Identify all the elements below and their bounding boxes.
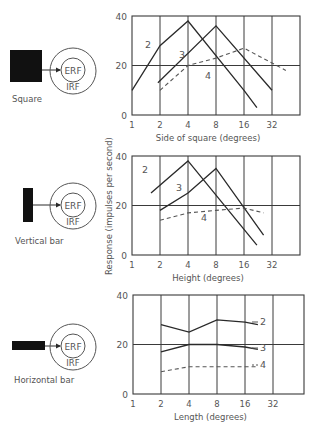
x-tick-label: 2 — [157, 260, 162, 270]
x-tick-label: 8 — [214, 399, 219, 409]
square-stimulus-icon — [10, 50, 42, 82]
figure: 0204012481632Side of square (degrees)234… — [0, 0, 315, 429]
horizontal-bar-stimulus-icon — [12, 341, 45, 350]
irf-label: IRF — [66, 82, 79, 92]
x-tick-label: 16 — [239, 260, 250, 270]
series-label-3: 3 — [260, 342, 266, 353]
y-tick-label: 40 — [117, 291, 129, 301]
vertical-bar-stimulus-icon — [23, 188, 33, 222]
series-line-3 — [160, 168, 264, 235]
stimulus-diagram-1: ERFIRFSquare — [10, 48, 96, 104]
series-label-2: 2 — [145, 39, 151, 50]
x-tick-label: 16 — [240, 399, 251, 409]
series-label-2: 2 — [142, 164, 148, 175]
y-tick-label: 0 — [121, 251, 127, 261]
x-tick-label: 2 — [157, 120, 162, 130]
erf-label: ERF — [64, 66, 81, 76]
x-tick-label: 4 — [186, 399, 191, 409]
x-tick-label: 8 — [213, 120, 218, 130]
chart-panel-2: 0204012481632Height (degrees)234ERFIRFVe… — [15, 152, 300, 284]
x-tick-label: 16 — [239, 120, 250, 130]
stimulus-label: Square — [12, 94, 42, 104]
erf-label: ERF — [64, 201, 81, 211]
x-tick-label: 2 — [158, 399, 163, 409]
x-tick-label: 32 — [267, 260, 278, 270]
x-tick-label: 1 — [130, 399, 135, 409]
y-tick-label: 20 — [116, 61, 128, 71]
irf-label: IRF — [66, 358, 79, 368]
x-tick-label: 4 — [185, 260, 190, 270]
stimulus-diagram-2: ERFIRFVertical bar — [15, 183, 96, 246]
x-tick-label: 4 — [185, 120, 190, 130]
y-axis-label: Response (impulses per second) — [104, 137, 114, 275]
series-label-2: 2 — [260, 316, 266, 327]
stimulus-diagram-3: ERFIRFHorizontal bar — [12, 324, 96, 385]
x-tick-label: 1 — [129, 120, 134, 130]
y-tick-label: 20 — [116, 201, 128, 211]
x-tick-label: 8 — [213, 260, 218, 270]
series-line-2 — [161, 320, 258, 332]
series-line-3 — [161, 345, 258, 352]
x-axis-label: Height (degrees) — [172, 273, 244, 283]
stimulus-label: Vertical bar — [15, 236, 64, 246]
stimulus-label: Horizontal bar — [14, 375, 75, 385]
series-line-4 — [161, 367, 258, 372]
x-axis-label: Length (degrees) — [174, 412, 247, 422]
x-tick-label: 32 — [268, 399, 279, 409]
series-label-4: 4 — [205, 70, 211, 81]
y-tick-label: 40 — [116, 12, 128, 22]
y-tick-label: 20 — [117, 340, 129, 350]
x-tick-label: 1 — [129, 260, 134, 270]
series-label-4: 4 — [201, 212, 207, 223]
erf-label: ERF — [64, 342, 81, 352]
chart-panel-3: 0204012481632Length (degrees)234ERFIRFHo… — [12, 291, 304, 423]
series-label-4: 4 — [260, 359, 266, 370]
chart-panel-1: 0204012481632Side of square (degrees)234… — [10, 12, 300, 144]
series-label-3: 3 — [179, 49, 185, 60]
x-tick-label: 32 — [267, 120, 278, 130]
y-tick-label: 40 — [116, 152, 128, 162]
y-tick-label: 0 — [121, 111, 127, 121]
y-tick-label: 0 — [122, 390, 128, 400]
x-axis-label: Side of square (degrees) — [156, 133, 261, 143]
series-label-3: 3 — [176, 182, 182, 193]
irf-label: IRF — [66, 217, 79, 227]
